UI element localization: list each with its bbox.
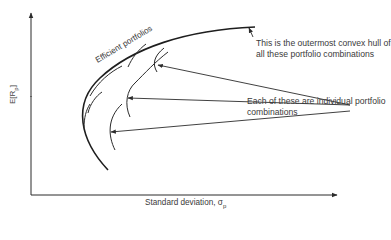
hull-annotation-line-1: This is the outermost convex hull of	[256, 38, 391, 49]
individual-annotation: Each of these are individual portfolio c…	[247, 96, 386, 118]
x-axis-label: Standard deviation, σp	[145, 198, 226, 209]
hull-annotation-line-2: all these portfolio combinations	[256, 49, 391, 60]
individual-annotation-line-2: combinations	[247, 107, 386, 118]
hull-annotation: This is the outermost convex hull of all…	[256, 38, 391, 60]
combo-curve-5	[127, 52, 168, 117]
hull-arrow	[249, 28, 253, 37]
combo-curve-1	[90, 66, 122, 96]
combo-curve-7	[84, 104, 90, 128]
y-axis-label: E[Rp]	[8, 85, 19, 104]
combo-curve-4	[110, 104, 122, 150]
individual-annotation-line-1: Each of these are individual portfolio	[247, 96, 386, 107]
